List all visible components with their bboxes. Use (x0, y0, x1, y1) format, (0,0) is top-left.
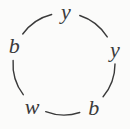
cycle-arc (80, 16, 107, 37)
cycle-node-label-b: b (88, 95, 99, 120)
cycle-node-label-y: y (59, 0, 71, 24)
cycle-diagram-svg: yybwb (0, 0, 130, 129)
cycle-node-label-w: w (25, 94, 40, 119)
cycle-arc (46, 112, 80, 115)
cycle-arc (13, 60, 23, 94)
cycle-node-label-b: b (9, 33, 20, 58)
cycle-arc (103, 64, 115, 97)
cycle-arc (23, 15, 52, 35)
cycle-diagram: yybwb (0, 0, 130, 129)
cycle-node-label-y: y (108, 37, 120, 62)
